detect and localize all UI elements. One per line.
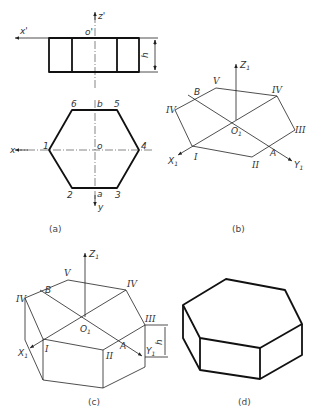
x1-axis [30, 290, 126, 348]
z1-label: Z1 [239, 60, 250, 71]
vertex-IV-left-label: IV [15, 294, 28, 304]
vertex-4-label: 4 [141, 141, 147, 151]
x1-axis [178, 96, 277, 155]
hexagon-top-view [49, 110, 139, 188]
point-B-label: B [45, 285, 51, 295]
vertex-IV-left-label: IV [165, 105, 178, 115]
vertex-IV-right-label: IV [126, 279, 139, 289]
x1-label: X1 [167, 156, 178, 167]
vertex-V-label: V [213, 76, 221, 86]
vertex-V-label: V [64, 268, 72, 278]
origin-o-prime-label: o' [85, 27, 93, 37]
point-B-label: B [194, 87, 200, 97]
vertex-2-label: 2 [67, 190, 73, 200]
vertex-II-label: II [105, 351, 114, 361]
vertex-3-label: 3 [115, 190, 121, 200]
x1-label: X1 [17, 348, 28, 359]
caption-b: (b) [232, 224, 245, 234]
caption-a: (a) [49, 224, 62, 234]
center-o-label: o [97, 141, 103, 151]
vertex-1-label: 1 [43, 141, 49, 151]
vertex-I-label: I [193, 152, 198, 162]
o1-label: O1 [80, 324, 91, 335]
top-view: x y o 1 2 3 4 5 6 b a [9, 99, 152, 212]
caption-c: (c) [88, 397, 100, 407]
vertex-6-label: 6 [71, 99, 77, 109]
point-A-label: A [269, 148, 276, 158]
panel-c: h Z1 O1 X1 Y1 I II III IV V IV A B (c) [15, 249, 168, 407]
vertex-5-label: 5 [114, 99, 120, 109]
point-b-label: b [97, 99, 103, 109]
y1-label: Y1 [146, 346, 155, 357]
o1-label: O1 [231, 126, 242, 137]
panel-d: (d) [183, 279, 302, 407]
vertex-III-label: III [144, 314, 156, 324]
y1-label: Y1 [294, 160, 303, 171]
z1-label: Z1 [88, 249, 99, 260]
vertex-I-label: I [44, 344, 49, 354]
vertex-II-label: II [251, 160, 260, 170]
front-view: x' z' o' h [15, 11, 158, 88]
y1-axis [188, 95, 292, 161]
front-view-outline [49, 38, 139, 72]
x-prime-label: x' [19, 26, 28, 36]
panel-a: x' z' o' h x y o 1 2 3 4 5 6 b a (a) [9, 11, 158, 234]
prism-top-face [183, 279, 302, 348]
z-prime-label: z' [97, 11, 105, 21]
point-A-label: A [119, 341, 126, 351]
vertex-III-label: III [294, 125, 306, 135]
x-label: x [9, 145, 16, 155]
panel-b: Z1 O1 X1 Y1 I II III IV V IV A B (b) [165, 60, 306, 234]
vertex-IV-right-label: IV [271, 85, 284, 95]
y1-axis [40, 290, 142, 356]
y-label: y [97, 202, 104, 212]
h-label: h [140, 52, 150, 58]
caption-d: (d) [238, 397, 251, 407]
hexagonal-prism-isometric-figure: x' z' o' h x y o 1 2 3 4 5 6 b a (a) [0, 0, 318, 416]
point-a-label: a [97, 189, 103, 199]
h-label: h [154, 339, 164, 345]
